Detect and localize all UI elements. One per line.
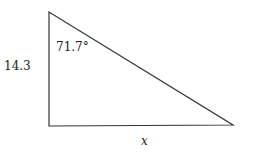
triangle-diagram: 14.3 71.7° x [0,0,256,159]
angle-label: 71.7° [56,40,89,54]
right-triangle [49,12,233,126]
horizontal-side-label: x [141,134,148,148]
vertical-side-label: 14.3 [4,59,31,73]
